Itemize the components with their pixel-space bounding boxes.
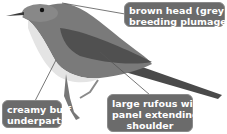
bird-diagram: brown head (grey in breeding plumage) cr… [0, 0, 227, 134]
callout-wing-line-3: shoulder [112, 120, 188, 131]
callout-underparts-line-1: creamy buff [7, 104, 57, 115]
bird-head [22, 4, 58, 22]
callout-head-line-2: breeding plumage) [129, 16, 220, 27]
leader-line-underparts [35, 60, 56, 101]
bird-eye [40, 8, 44, 12]
callout-head: brown head (grey in breeding plumage) [124, 2, 225, 27]
callout-wing: large rufous wing panel extending to sho… [107, 94, 193, 132]
callout-wing-line-1: large rufous wing [112, 98, 188, 109]
bird-leg [80, 80, 98, 98]
bird-beak [6, 12, 24, 16]
callout-head-line-1: brown head (grey in [129, 5, 220, 16]
callout-wing-line-2: panel extending to [112, 109, 188, 120]
callout-underparts: creamy buff underparts [2, 100, 62, 128]
callout-underparts-line-2: underparts [7, 115, 57, 126]
